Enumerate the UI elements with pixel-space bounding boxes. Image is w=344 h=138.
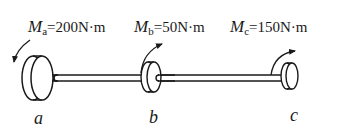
disk-label-a: a: [34, 108, 43, 128]
disk-b: [141, 62, 175, 92]
shaft: [53, 75, 290, 81]
torque-label-c: Mc=150N·m: [229, 17, 308, 37]
torque-value-b: =50N·m: [154, 19, 205, 35]
torque-value-a: =200N·m: [47, 19, 106, 35]
disk-label-b: b: [149, 107, 158, 127]
disk-a: [22, 56, 58, 100]
svg-text:Mb=50N·m: Mb=50N·m: [133, 17, 205, 37]
svg-text:Ma=200N·m: Ma=200N·m: [27, 17, 106, 37]
svg-text:Mc=150N·m: Mc=150N·m: [229, 17, 308, 37]
disk-label-c: c: [290, 105, 298, 125]
shaft-diagram: Ma=200N·m Mb=50N·m Mc=150N·m a b c: [0, 0, 344, 138]
torque-value-c: =150N·m: [249, 19, 308, 35]
torque-label-b: Mb=50N·m: [133, 17, 205, 37]
torque-label-a: Ma=200N·m: [27, 17, 106, 37]
disk-c: [281, 63, 298, 89]
